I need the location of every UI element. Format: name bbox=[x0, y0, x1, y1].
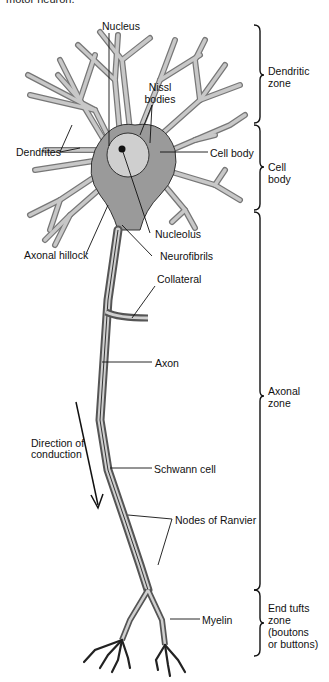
label-cell-body: Cell body bbox=[210, 147, 254, 159]
zone-dendritic-line2: zone bbox=[268, 77, 309, 89]
nucleus-shape bbox=[107, 133, 149, 177]
nucleolus-shape bbox=[119, 146, 126, 153]
label-nucleolus: Nucleolus bbox=[155, 228, 201, 240]
zone-axonal-line1: Axonal bbox=[268, 385, 300, 397]
zone-dendritic: Dendritic zone bbox=[268, 65, 309, 89]
axon bbox=[84, 230, 185, 676]
label-nodes-of-ranvier: Nodes of Ranvier bbox=[175, 514, 256, 526]
zone-axonal-line2: zone bbox=[268, 397, 300, 409]
label-myelin: Myelin bbox=[202, 614, 232, 626]
label-collateral: Collateral bbox=[157, 273, 201, 285]
zone-end-tufts-line2: zone bbox=[268, 614, 318, 626]
zone-end-tufts-line1: End tufts bbox=[268, 602, 318, 614]
zone-braces bbox=[254, 25, 264, 656]
label-nucleus: Nucleus bbox=[102, 20, 140, 32]
label-axonal-hillock: Axonal hillock bbox=[24, 249, 88, 261]
zone-end-tufts-line4: or buttons) bbox=[268, 638, 318, 650]
label-direction-line2: conduction bbox=[31, 448, 82, 460]
zone-cell-body: Cell body bbox=[268, 161, 291, 185]
zone-cell-body-line2: body bbox=[268, 173, 291, 185]
label-dendrites: Dendrites bbox=[16, 146, 61, 158]
zone-axonal: Axonal zone bbox=[268, 385, 300, 409]
label-nissl-line1: Nissl bbox=[145, 81, 175, 93]
zone-end-tufts: End tufts zone (boutons or buttons) bbox=[268, 602, 318, 650]
zone-end-tufts-line3: (boutons bbox=[268, 626, 318, 638]
label-nissl-line2: bodies bbox=[140, 93, 180, 105]
leader-lines bbox=[60, 33, 208, 619]
zone-cell-body-line1: Cell bbox=[268, 161, 291, 173]
zone-dendritic-line1: Dendritic bbox=[268, 65, 309, 77]
label-neurofibrils: Neurofibrils bbox=[160, 250, 213, 262]
label-schwann-cell: Schwann cell bbox=[154, 463, 216, 475]
label-axon: Axon bbox=[155, 357, 179, 369]
